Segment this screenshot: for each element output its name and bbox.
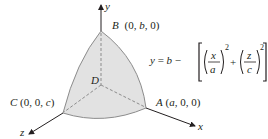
x-axis-label: x: [197, 120, 203, 132]
surface-equation: y = b − x a 2 + z c 2: [149, 43, 266, 81]
svg-text:z: z: [246, 49, 252, 61]
x-axis: [146, 108, 195, 126]
svg-text:2: 2: [260, 43, 264, 52]
point-b-label: B (0, b, 0): [112, 19, 160, 32]
paraboloid-surface: [63, 31, 146, 118]
svg-text:2: 2: [225, 43, 229, 52]
point-a-label: A (a, 0, 0): [155, 96, 201, 109]
svg-text:a: a: [210, 63, 216, 75]
svg-text:y = b −: y = b −: [149, 54, 181, 66]
svg-text:c: c: [247, 63, 252, 75]
point-c-label: C (0, 0, c): [10, 96, 55, 109]
paraboloid-diagram: y z x B (0, b, 0) D C (0, 0, c) A (a, 0,…: [0, 0, 268, 139]
point-d-label: D: [90, 74, 99, 86]
z-axis: [29, 113, 63, 134]
svg-text:x: x: [210, 49, 216, 61]
svg-text:+: +: [230, 56, 236, 68]
z-axis-label: z: [19, 126, 25, 138]
y-axis-label: y: [104, 0, 110, 12]
